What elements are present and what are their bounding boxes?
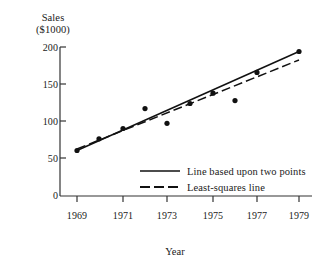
data-point (96, 136, 101, 141)
fit-lines (77, 52, 299, 151)
chart-canvas (0, 0, 329, 268)
data-point (142, 106, 147, 111)
legend-swatches (140, 171, 180, 187)
data-point (164, 121, 169, 126)
data-point (232, 98, 237, 103)
data-point (296, 49, 301, 54)
data-point (210, 91, 215, 96)
sales-scatter-chart: Sales($1000) 200 150 100 50 0 1969 1971 … (0, 0, 329, 268)
data-point (74, 148, 79, 153)
data-point (187, 101, 192, 106)
data-point (254, 70, 259, 75)
data-point (120, 126, 125, 131)
